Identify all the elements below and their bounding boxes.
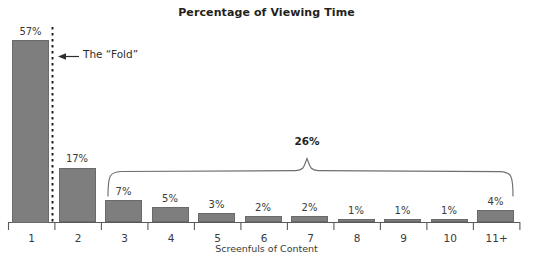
bar-5 — [198, 213, 235, 222]
bar-value-label-11: 4% — [476, 196, 516, 207]
tail-brace — [108, 159, 513, 197]
fold-arrow-icon — [58, 53, 79, 60]
bar-11 — [477, 210, 514, 223]
bar-value-label-8: 1% — [336, 205, 376, 216]
bar-value-label-10: 1% — [429, 205, 469, 216]
bar-2 — [59, 168, 96, 223]
bar-6 — [245, 216, 282, 222]
bar-value-label-2: 17% — [57, 153, 97, 164]
bar-value-label-1: 57% — [11, 26, 51, 37]
bar-value-label-5: 3% — [197, 199, 237, 210]
chart-vector-layer — [0, 0, 533, 264]
bar-10 — [431, 219, 468, 222]
bar-value-label-7: 2% — [290, 202, 330, 213]
chart-container: Percentage of Viewing Time — [0, 0, 533, 264]
x-axis-title: Screenfuls of Content — [0, 243, 533, 254]
x-axis-ticks — [9, 222, 520, 230]
bar-value-label-3: 7% — [104, 186, 144, 197]
bar-value-label-9: 1% — [383, 205, 423, 216]
bar-7 — [291, 216, 328, 222]
bar-8 — [338, 219, 375, 222]
bar-9 — [384, 219, 421, 222]
fold-annotation-label: The “Fold” — [83, 48, 138, 60]
bar-1 — [12, 40, 49, 223]
bar-value-label-4: 5% — [150, 193, 190, 204]
bracket-value-label: 26% — [277, 135, 337, 147]
bar-4 — [152, 207, 189, 223]
bar-value-label-6: 2% — [243, 202, 283, 213]
bar-3 — [105, 200, 142, 222]
